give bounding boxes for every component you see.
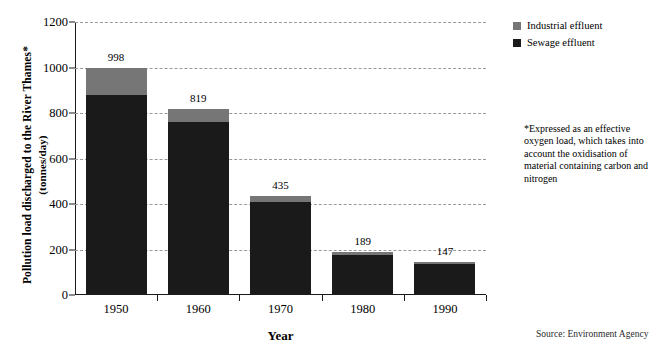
bar-segment-sewage-1960 — [168, 122, 229, 295]
x-axis-tick-label-1980: 1980 — [350, 302, 375, 317]
bar-value-label-1990: 147 — [437, 245, 454, 257]
y-axis-tick-label: 1200 — [43, 15, 68, 30]
y-axis-tick-mark — [69, 204, 75, 205]
x-axis-tick-label-1970: 1970 — [268, 302, 293, 317]
x-axis-tick-mark — [404, 295, 405, 301]
bar-segment-sewage-1950 — [86, 95, 147, 295]
y-axis-tick-mark — [69, 158, 75, 159]
bar-value-label-1950: 998 — [108, 51, 125, 63]
source-text: Source: Environment Agency — [536, 329, 648, 339]
legend-swatch-icon — [513, 22, 521, 30]
y-axis-tick-label: 400 — [49, 197, 68, 212]
x-axis-title: Year — [75, 328, 486, 344]
x-axis-tick-mark — [157, 295, 158, 301]
bar-segment-industrial-1970 — [250, 196, 311, 202]
y-axis-tick-labels: 020040060080010001200 — [0, 22, 68, 295]
x-axis-tick-label-1990: 1990 — [432, 302, 457, 317]
x-axis-tick-label-1960: 1960 — [186, 302, 211, 317]
y-axis-tick-label: 0 — [62, 288, 68, 303]
y-axis-tick-label: 600 — [49, 151, 68, 166]
legend-label: Industrial effluent — [527, 20, 602, 32]
y-axis-tick-mark — [69, 295, 75, 296]
bar-segment-industrial-1990 — [414, 262, 475, 265]
y-axis-tick-mark — [69, 113, 75, 114]
bar-value-label-1960: 819 — [190, 92, 207, 104]
bar-segment-sewage-1980 — [332, 255, 393, 295]
bar-segment-industrial-1980 — [332, 252, 393, 255]
bar-segment-industrial-1960 — [168, 109, 229, 122]
bar-1970 — [250, 196, 311, 295]
legend-item-2: Sewage effluent — [513, 37, 602, 49]
bar-1960 — [168, 109, 229, 295]
footnote-text: *Expressed as an effective oxygen load, … — [524, 123, 659, 185]
legend-item-1: Industrial effluent — [513, 20, 602, 32]
y-axis-tick-mark — [69, 249, 75, 250]
bar-1980 — [332, 252, 393, 295]
x-axis-tick-mark — [486, 295, 487, 301]
bar-value-label-1980: 189 — [354, 235, 371, 247]
plot-area: 998819435189147 — [75, 22, 486, 295]
bar-segment-sewage-1990 — [414, 264, 475, 295]
legend: Industrial effluentSewage effluent — [513, 20, 602, 54]
bar-segment-industrial-1950 — [86, 68, 147, 95]
pollution-load-bar-chart: Pollution load discharged to the River T… — [0, 0, 663, 359]
bar-value-label-1970: 435 — [272, 179, 289, 191]
x-axis-tick-mark — [322, 295, 323, 301]
plot-inner: 998819435189147 — [75, 22, 486, 295]
legend-label: Sewage effluent — [527, 37, 595, 49]
y-axis-tick-mark — [69, 67, 75, 68]
bar-segment-sewage-1970 — [250, 202, 311, 295]
bar-1950 — [86, 68, 147, 295]
gridline — [75, 22, 486, 23]
y-axis-tick-label: 1000 — [43, 60, 68, 75]
y-axis-tick-mark — [69, 22, 75, 23]
x-axis-tick-label-1950: 1950 — [104, 302, 129, 317]
legend-swatch-icon — [513, 39, 521, 47]
y-axis-tick-label: 200 — [49, 242, 68, 257]
y-axis-tick-label: 800 — [49, 106, 68, 121]
x-axis-tick-mark — [239, 295, 240, 301]
bar-1990 — [414, 262, 475, 295]
